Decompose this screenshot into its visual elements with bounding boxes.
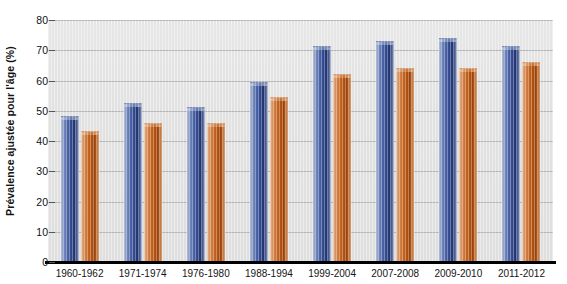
bar-cap (313, 47, 331, 50)
x-tick-label: 2011-2012 (484, 268, 558, 279)
bar-cap (124, 104, 142, 107)
y-tick-mark (49, 171, 55, 172)
y-tick-mark (49, 141, 55, 142)
plot-area (48, 20, 553, 262)
bar-serie-bleue-2007-2008 (376, 41, 394, 262)
bar-cap (522, 63, 540, 66)
bar-serie-orange-1960-1962 (81, 131, 99, 262)
bar-cap (207, 124, 225, 127)
y-tick-label: 0 (20, 255, 48, 269)
y-tick-mark (49, 81, 55, 82)
bar-cap (250, 83, 268, 86)
bar-cap (502, 47, 520, 50)
bar-serie-bleue-2009-2010 (439, 38, 457, 262)
bar-cap (144, 124, 162, 127)
bar-serie-bleue-1999-2004 (313, 46, 331, 262)
y-axis-title: Prévalence ajustée pour l'âge (%) (0, 0, 20, 262)
bar-serie-orange-1971-1974 (144, 123, 162, 262)
bar-serie-orange-2009-2010 (459, 68, 477, 262)
bar-cap (61, 117, 79, 120)
bar-cap (396, 69, 414, 72)
bar-serie-bleue-1971-1974 (124, 103, 142, 262)
bar-cap (376, 42, 394, 45)
y-tick-mark (49, 20, 55, 21)
y-tick-label: 20 (20, 195, 48, 209)
y-tick-mark (49, 262, 55, 263)
y-tick-label: 70 (20, 43, 48, 57)
y-tick-label: 30 (20, 164, 48, 178)
bar-serie-orange-1999-2004 (333, 74, 351, 262)
y-tick-label: 10 (20, 225, 48, 239)
bar-serie-orange-2011-2012 (522, 62, 540, 262)
bar-serie-bleue-1988-1994 (250, 82, 268, 262)
bar-cap (333, 75, 351, 78)
y-tick-label: 50 (20, 104, 48, 118)
bar-cap (81, 132, 99, 135)
y-axis-title-label: Prévalence ajustée pour l'âge (%) (4, 46, 16, 216)
bar-cap (270, 98, 288, 101)
x-axis-line (45, 261, 556, 264)
bar-chart: Prévalence ajustée pour l'âge (%) 1960-1… (0, 0, 567, 284)
bar-serie-bleue-1960-1962 (61, 116, 79, 262)
gridline (48, 20, 553, 21)
gridline (48, 50, 553, 51)
bar-serie-bleue-2011-2012 (502, 46, 520, 262)
y-tick-mark (49, 202, 55, 203)
y-tick-mark (49, 50, 55, 51)
bar-serie-orange-2007-2008 (396, 68, 414, 262)
bar-cap (439, 39, 457, 42)
y-tick-label: 80 (20, 13, 48, 27)
bar-serie-orange-1976-1980 (207, 123, 225, 262)
bar-serie-orange-1988-1994 (270, 97, 288, 262)
y-tick-label: 60 (20, 74, 48, 88)
bar-cap (187, 108, 205, 111)
bar-cap (459, 69, 477, 72)
y-tick-mark (49, 232, 55, 233)
y-tick-mark (49, 111, 55, 112)
y-tick-label: 40 (20, 134, 48, 148)
bar-serie-bleue-1976-1980 (187, 107, 205, 262)
